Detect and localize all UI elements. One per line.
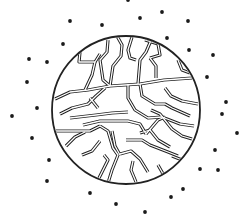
dot — [30, 136, 34, 140]
dot — [88, 191, 92, 195]
dot — [224, 100, 228, 104]
dot — [160, 10, 164, 14]
dot — [138, 16, 142, 20]
dot — [100, 23, 104, 27]
dot — [169, 195, 173, 199]
dot — [143, 210, 147, 214]
dot — [61, 42, 65, 46]
channel — [110, 36, 122, 86]
channel — [82, 141, 100, 155]
channel — [79, 52, 100, 62]
dot — [213, 148, 217, 152]
dot — [181, 187, 185, 191]
dot — [187, 48, 191, 52]
dot — [216, 168, 220, 172]
scattered-dots — [10, 0, 239, 214]
dot — [220, 112, 224, 116]
channel — [100, 40, 110, 86]
cell-diagram — [0, 0, 250, 217]
dot — [165, 36, 169, 40]
channel — [56, 126, 100, 131]
dot — [114, 202, 118, 206]
channel-core — [83, 121, 146, 134]
dot — [47, 158, 51, 162]
branching-channels — [55, 36, 198, 183]
dot — [25, 80, 29, 84]
dot — [211, 53, 215, 57]
dot — [68, 19, 72, 23]
dot — [235, 131, 239, 135]
diagram-canvas — [0, 0, 250, 217]
dot — [186, 19, 190, 23]
channel — [165, 88, 198, 104]
dot — [205, 75, 209, 79]
dot — [35, 106, 39, 110]
channel-core — [66, 132, 85, 146]
dot — [45, 60, 49, 64]
channel-core — [70, 112, 128, 118]
dot — [126, 0, 130, 2]
dot — [45, 179, 49, 183]
dot — [10, 114, 14, 118]
dot — [198, 167, 202, 171]
dot — [27, 57, 31, 61]
